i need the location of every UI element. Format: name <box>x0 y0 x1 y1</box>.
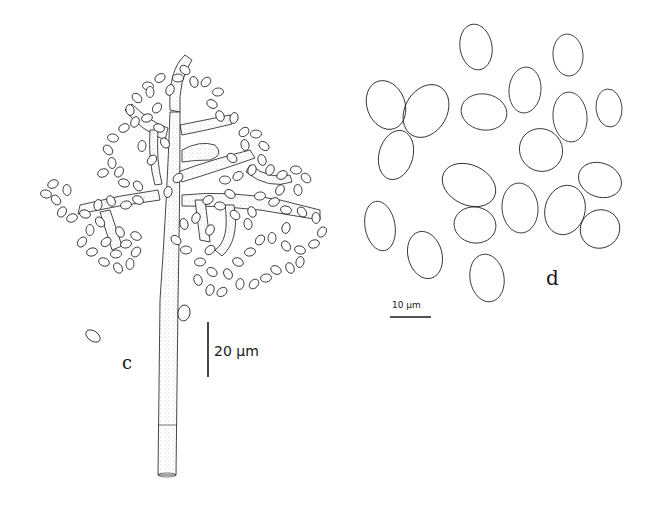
figure-illustration <box>0 0 660 506</box>
conidium <box>180 246 191 254</box>
conidium <box>205 284 216 297</box>
conidium <box>361 199 399 253</box>
conidium <box>507 66 543 115</box>
panel-c-conidiophore <box>40 55 329 477</box>
conidium <box>112 261 125 275</box>
conidium <box>86 247 99 258</box>
conidium <box>56 205 69 219</box>
conidium <box>118 178 131 189</box>
conidium <box>205 98 219 110</box>
conidium <box>466 251 508 304</box>
stipe <box>158 112 180 475</box>
conidium <box>151 101 164 115</box>
panel-d-conidia <box>360 22 627 305</box>
conidium <box>146 86 154 97</box>
conidium <box>96 167 109 179</box>
conidium <box>290 165 302 174</box>
conidium <box>86 225 94 236</box>
conidium <box>316 225 329 239</box>
conidium <box>222 267 234 281</box>
conidium <box>40 189 52 199</box>
conidium <box>75 235 88 249</box>
conidium <box>253 233 266 247</box>
conidium <box>295 256 305 268</box>
conidium <box>173 74 184 82</box>
conidium <box>594 88 623 128</box>
conidium <box>117 122 130 134</box>
conidium <box>539 181 591 240</box>
conidium <box>274 183 286 196</box>
conidium <box>573 203 627 256</box>
conidium <box>203 243 217 256</box>
conidium <box>46 178 59 190</box>
conidium <box>268 232 276 243</box>
conidium <box>284 261 296 274</box>
conidium <box>120 239 132 249</box>
conidium <box>84 327 103 344</box>
conidium <box>237 125 251 138</box>
conidium <box>138 140 147 152</box>
conidium <box>435 155 503 215</box>
scale-bar-20um-label: 20 µm <box>214 343 259 359</box>
conidium <box>511 120 572 180</box>
conidium <box>215 286 229 299</box>
conidium <box>126 258 135 270</box>
conidium <box>458 90 510 133</box>
conidium <box>260 273 272 283</box>
conidium <box>244 247 257 257</box>
conidium <box>456 22 496 73</box>
conidium <box>402 227 447 282</box>
conidium <box>312 212 321 223</box>
conidium <box>243 218 253 230</box>
conidium <box>256 154 267 167</box>
conidium <box>129 245 142 259</box>
conidium <box>129 230 142 242</box>
conidium <box>130 91 144 104</box>
conidium <box>63 184 72 196</box>
conidium <box>194 258 206 267</box>
scale-bar-10um-label: 10 µm <box>392 300 421 310</box>
conidium <box>199 75 212 88</box>
conidium <box>294 244 307 255</box>
conidium <box>257 140 271 153</box>
panel-label-d: d <box>546 266 559 290</box>
conidium <box>192 273 203 286</box>
conidium <box>269 264 282 276</box>
conidium <box>107 133 119 143</box>
conidium <box>280 239 293 253</box>
conidium <box>451 204 499 247</box>
conidium <box>231 256 244 268</box>
conidium <box>153 72 167 85</box>
conidium <box>307 238 320 249</box>
conidium <box>247 277 260 290</box>
conidium <box>293 184 302 196</box>
conidium <box>240 139 250 152</box>
conidium <box>394 76 458 145</box>
conidium <box>97 256 110 267</box>
conidium <box>231 170 245 183</box>
conidium <box>177 304 192 322</box>
conidium <box>219 176 230 185</box>
conidium <box>551 33 585 77</box>
panel-label-c: c <box>122 352 132 373</box>
conidium <box>131 179 144 193</box>
conidium <box>110 250 121 258</box>
conidium <box>574 157 627 204</box>
conidium <box>235 278 244 290</box>
conidium <box>101 143 114 157</box>
conidium <box>65 212 78 223</box>
conidium <box>107 157 116 169</box>
conidium <box>250 130 261 138</box>
conidium <box>299 171 312 184</box>
conidium <box>205 266 219 279</box>
conidium <box>281 222 292 235</box>
conidium <box>500 182 540 235</box>
conidium <box>179 218 190 231</box>
conidium <box>189 76 200 89</box>
conidium <box>212 87 224 96</box>
